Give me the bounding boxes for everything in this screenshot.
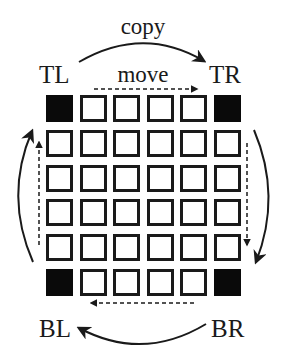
- grid-cell: [113, 199, 140, 226]
- grid-cell: [80, 95, 107, 122]
- top-left-label: TL: [39, 61, 70, 88]
- move-label: move: [117, 62, 168, 87]
- grid-cell: [147, 199, 174, 226]
- bottom-left-label: BL: [39, 315, 71, 342]
- grid-cell: [147, 95, 174, 122]
- diagram-canvas: copy move TL TR BL BR: [0, 0, 285, 359]
- grid-cell: [113, 269, 140, 296]
- bottom-right-label: BR: [211, 315, 245, 342]
- grid-cell: [180, 130, 207, 157]
- copy-label: copy: [121, 14, 166, 39]
- grid-cell: [46, 234, 73, 261]
- grid-cell: [80, 130, 107, 157]
- grid-cell: [214, 165, 241, 192]
- grid-cell: [214, 199, 241, 226]
- copy-arrow-right: [254, 130, 269, 262]
- grid-cell: [214, 130, 241, 157]
- grid-cell: [46, 199, 73, 226]
- copy-arrow-top: [79, 43, 204, 62]
- copy-arrow-bottom: [79, 324, 206, 344]
- grid-cell: [147, 130, 174, 157]
- grid-cell-tl-corner: [46, 95, 73, 122]
- grid-cell: [80, 199, 107, 226]
- grid-cell: [46, 130, 73, 157]
- grid-cell-br-corner: [214, 269, 241, 296]
- grid-cell: [80, 234, 107, 261]
- grid-cell: [214, 234, 241, 261]
- grid-cell: [46, 165, 73, 192]
- grid-cell: [113, 234, 140, 261]
- grid-cell: [147, 234, 174, 261]
- grid-cell: [113, 130, 140, 157]
- grid-cell: [147, 269, 174, 296]
- grid-cell: [180, 234, 207, 261]
- grid-cell-bl-corner: [46, 269, 73, 296]
- grid-cell: [113, 165, 140, 192]
- grid-cell: [180, 165, 207, 192]
- grid-cell-tr-corner: [214, 95, 241, 122]
- grid-cell: [180, 199, 207, 226]
- grid-cell: [180, 269, 207, 296]
- grid-cell: [147, 165, 174, 192]
- grid-cell: [180, 95, 207, 122]
- top-right-label: TR: [209, 61, 241, 88]
- copy-arrow-left: [18, 131, 33, 262]
- grid-cell: [80, 165, 107, 192]
- grid-cell: [113, 95, 140, 122]
- grid-cell: [80, 269, 107, 296]
- diagram-svg: copy move TL TR BL BR: [0, 0, 285, 359]
